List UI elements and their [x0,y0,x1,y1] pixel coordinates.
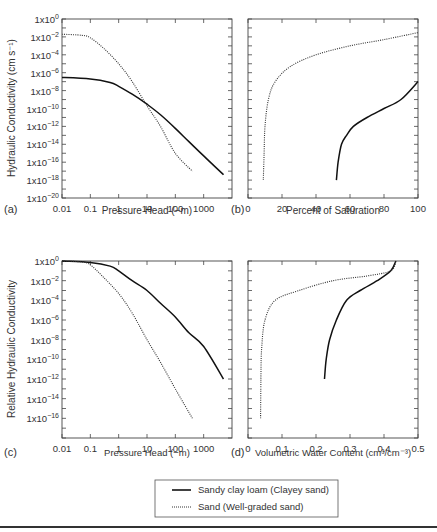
panel-tag-a: (a) [4,203,17,215]
x-tick-label: 80 [379,203,390,214]
bottom-rule [0,526,437,528]
panel-tag-b: (b) [231,203,244,215]
x-tick-label: 0.01 [53,203,72,214]
y-tick-label: 1x10−10 [27,103,60,115]
plot-frame [248,19,418,198]
series-sandy-clay-loam [325,261,396,379]
y-tick-label: 1x10−12 [27,120,60,132]
x-tick-label: 0.1 [84,203,97,214]
y-axis-label-c: Relative Hydraulic Conductivity [6,280,17,418]
figure-canvas: 1x1001x10−21x10−41x10−61x10−81x10−101x10… [0,0,437,532]
panel-c-relative-conductivity-vs-pressure-head: 1x1001x10−21x10−41x10−61x10−81x10−101x10… [27,255,232,454]
series-sandy-clay-loam [62,77,224,174]
y-tick-label: 1x10−4 [30,294,59,306]
series-sand [62,261,192,418]
y-tick-label: 1x100 [34,255,59,267]
panel-a-hydraulic-conductivity-vs-pressure-head: 1x1001x10−21x10−41x10−61x10−81x10−101x10… [27,13,232,214]
series-sandy-clay-loam [62,261,224,379]
legend-label-sand: Sand (Well-graded sand) [198,501,303,512]
x-tick-label: 0.5 [411,443,424,454]
y-tick-label: 1x10−8 [30,334,59,346]
x-tick-label: 0.01 [53,443,72,454]
plot-frame [62,19,232,198]
x-tick-label: 0.1 [84,443,97,454]
panel-tag-d: (d) [231,446,244,458]
legend: Sandy clay loam (Clayey sand) Sand (Well… [155,480,338,517]
x-tick-label: 0 [245,203,250,214]
x-axis-label-a: Pressure Head (−m) [102,205,192,216]
x-tick-label: 1000 [193,203,214,214]
x-axis-label-c: Pressure Head (−m) [104,447,190,458]
x-axis-label-b: Percent of Saturation [286,205,380,216]
panel-b-hydraulic-conductivity-vs-saturation: 020406080100 [245,19,426,214]
series-sand [261,261,396,418]
y-tick-label: 1x10−2 [30,31,59,43]
legend-label-sandy-clay-loam: Sandy clay loam (Clayey sand) [198,484,329,495]
y-tick-label: 1x10−16 [27,412,60,424]
y-tick-label: 1x10−12 [27,373,60,385]
series-sand [62,34,192,171]
y-tick-label: 1x10−8 [30,85,59,97]
y-tick-label: 1x10−6 [30,67,59,79]
y-tick-label: 1x100 [34,13,59,25]
x-tick-label: 0 [245,443,250,454]
plot-frame [248,261,418,438]
y-tick-label: 1x10−10 [27,353,60,365]
y-tick-label: 1x10−4 [30,49,59,61]
series-sandy-clay-loam [336,82,418,181]
y-tick-label: 1x10−14 [27,393,60,405]
y-tick-label: 1x10−18 [27,174,60,186]
y-tick-label: 1x10−6 [30,314,59,326]
series-sand [263,33,418,181]
x-tick-label: 100 [410,203,426,214]
y-tick-label: 1x10−14 [27,138,60,150]
panel-d-relative-conductivity-vs-water-content: 00.10.20.30.40.5 [245,261,424,454]
x-axis-label-d: Volumetric Water Content (cm³/cm⁻³) [255,447,411,458]
y-axis-label-a: Hydraulic Conductivity (cm s⁻¹) [6,39,17,177]
x-tick-label: 1000 [193,443,214,454]
panel-tag-c: (c) [4,446,17,458]
y-tick-label: 1x10−16 [27,156,60,168]
y-tick-label: 1x10−2 [30,275,59,287]
